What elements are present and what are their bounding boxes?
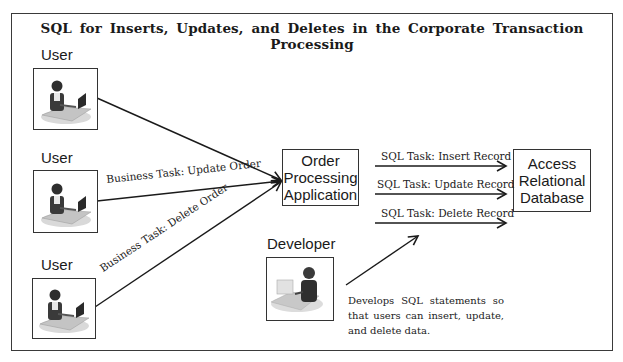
user-at-computer-icon [33,279,95,338]
user-2-label: User [41,149,73,166]
insert-record-label: SQL Task: Insert Record [381,150,511,162]
user-3-label: User [41,256,73,273]
node-line: Relational [519,172,586,189]
user-3-box [32,278,96,339]
developer-note: Develops SQL statements so that users ca… [348,293,504,338]
user-1-label: User [41,46,73,63]
access-relational-database-node: Access Relational Database [513,149,591,212]
user-2-box [33,170,98,233]
edge-user3-to-app [95,182,281,307]
node-line: Processing [283,169,357,186]
order-processing-application-node: Order Processing Application [282,149,359,206]
user-at-computer-icon [34,171,97,232]
developer-label: Developer [267,235,335,252]
node-line: Order [283,152,357,169]
user-at-computer-icon [34,69,97,129]
developer-at-computer-icon [267,258,333,320]
node-line: Database [519,189,586,206]
node-line: Application [283,186,357,203]
node-line: Access [519,155,586,172]
diagram-canvas: SQL for Inserts, Updates, and Deletes in… [0,0,623,362]
delete-record-label: SQL Task: Delete Record [381,207,514,219]
update-record-label: SQL Task: Update Record [377,178,515,190]
edge-user2-to-app [97,181,281,201]
user-1-box [33,68,98,130]
developer-box [266,257,334,321]
edge-developer-to-sql [346,236,418,285]
